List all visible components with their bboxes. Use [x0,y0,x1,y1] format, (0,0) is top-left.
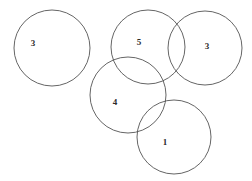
circle-middle-lower[interactable] [90,57,166,133]
diagram-canvas: 35341 [0,0,252,181]
circles-layer [0,0,252,181]
circle-right-label: 3 [205,42,210,51]
circle-middle-lower-label: 4 [113,98,118,107]
circle-bottom-right-label: 1 [163,138,168,147]
circle-top-middle[interactable] [111,10,185,84]
circle-bottom-right[interactable] [137,100,211,174]
circle-top-middle-label: 5 [137,38,142,47]
circle-left[interactable] [14,10,90,86]
circle-left-label: 3 [31,39,36,48]
